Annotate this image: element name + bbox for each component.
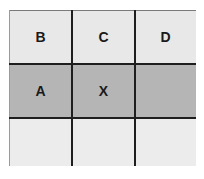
cell-c: C <box>72 10 135 64</box>
cell-x: X <box>72 64 135 118</box>
cell-empty-bottom-right <box>135 118 196 166</box>
grid-left-border <box>9 10 10 166</box>
cell-empty-bottom-left <box>9 118 72 166</box>
grid-vertical-divider-2 <box>134 10 136 166</box>
grid-horizontal-divider-1 <box>9 63 196 65</box>
grid-vertical-divider-1 <box>71 10 73 166</box>
grid-top-border <box>9 10 196 11</box>
cell-d: D <box>135 10 196 64</box>
grid-diagram: B C D A X <box>9 10 196 166</box>
cell-a: A <box>9 64 72 118</box>
cell-b: B <box>9 10 72 64</box>
cell-empty-bottom-center <box>72 118 135 166</box>
grid-horizontal-divider-2 <box>9 117 196 119</box>
cell-empty-mid-right <box>135 64 196 118</box>
